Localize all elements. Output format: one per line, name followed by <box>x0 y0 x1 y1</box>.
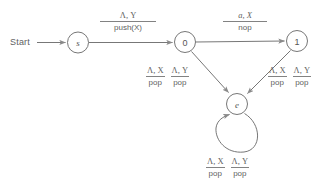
edge-label-s-to-0: Λ, Y push(X) <box>100 11 156 32</box>
edge-e-self-loop <box>216 114 258 153</box>
edge-label-1-to-e-a-read: Λ, X <box>268 66 287 77</box>
automaton-diagram-canvas: s 0 1 e Start Λ, Y push(X) a, X nop Λ, X… <box>0 0 334 187</box>
edge-label-1-to-e-a: Λ, X pop <box>268 66 287 87</box>
edge-label-0-to-e-b-action: pop <box>171 77 190 87</box>
edge-label-0-to-1-action: nop <box>223 22 267 32</box>
state-node-e-label: e <box>235 100 239 110</box>
edge-labels-0-to-e: Λ, X pop Λ, Y pop <box>146 66 189 87</box>
diagram-svg: s 0 1 e <box>0 0 334 187</box>
edge-label-e-self-a-action: pop <box>206 168 225 178</box>
edge-label-0-to-e-b-read: Λ, Y <box>171 66 190 77</box>
edge-label-0-to-e-a-read: Λ, X <box>146 66 165 77</box>
edge-label-e-self-b-action: pop <box>231 168 250 178</box>
edge-label-0-to-e-a-action: pop <box>146 77 165 87</box>
edge-label-e-self-b: Λ, Y pop <box>231 157 250 178</box>
edge-label-s-to-0-read: Λ, Y <box>100 11 156 22</box>
edge-label-0-to-e-b: Λ, Y pop <box>171 66 190 87</box>
state-node-0-label: 0 <box>182 38 187 48</box>
start-label: Start <box>10 37 30 47</box>
edge-0-to-1 <box>196 41 285 42</box>
edge-label-1-to-e-b-read: Λ, Y <box>293 66 312 77</box>
edge-label-1-to-e-a-action: pop <box>268 77 287 87</box>
edge-label-0-to-1: a, X nop <box>223 11 267 32</box>
edge-label-e-self-a-read: Λ, X <box>206 157 225 168</box>
edge-labels-1-to-e: Λ, X pop Λ, Y pop <box>268 66 311 87</box>
state-node-1-label: 1 <box>294 37 299 47</box>
edge-label-1-to-e-b: Λ, Y pop <box>293 66 312 87</box>
edge-labels-e-self-loop: Λ, X pop Λ, Y pop <box>206 157 249 178</box>
edge-label-e-self-b-read: Λ, Y <box>231 157 250 168</box>
edge-0-to-e <box>192 52 229 93</box>
edge-label-1-to-e-b-action: pop <box>293 77 312 87</box>
edge-label-e-self-a: Λ, X pop <box>206 157 225 178</box>
state-node-s-label: s <box>76 38 80 48</box>
edge-label-s-to-0-action: push(X) <box>100 22 156 32</box>
edge-label-0-to-1-read: a, X <box>223 11 267 22</box>
edge-label-0-to-e-a: Λ, X pop <box>146 66 165 87</box>
